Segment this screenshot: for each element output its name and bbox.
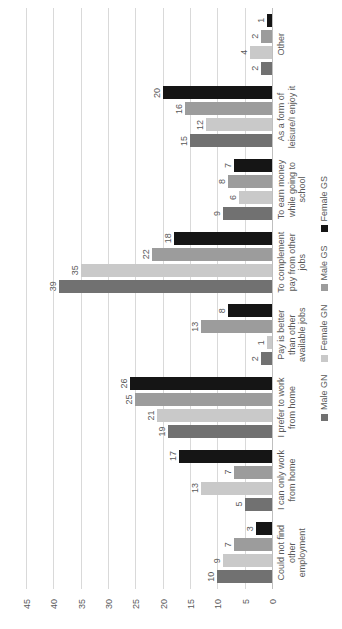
bar-value-label: 13 xyxy=(190,314,200,340)
bar-male-gn xyxy=(245,498,272,511)
value-axis: 051015202530354045 xyxy=(17,595,273,629)
category-label: To complementpay from otherjobs xyxy=(276,226,308,299)
value-axis-label: 25 xyxy=(131,599,141,629)
legend-item: Male GN xyxy=(319,375,329,422)
bar-male-gn xyxy=(59,280,272,293)
bar-female-gs xyxy=(130,377,272,390)
legend-item: Male GS xyxy=(319,245,329,291)
bar-value-label: 19 xyxy=(157,418,167,444)
bar-male-gn xyxy=(261,62,272,75)
bar-female-gs xyxy=(256,522,272,535)
value-axis-label: 35 xyxy=(77,599,87,629)
bar-value-label: 6 xyxy=(228,185,238,211)
category-label: To earn moneywhile going toschool xyxy=(276,153,308,226)
bar-value-label: 8 xyxy=(217,298,227,324)
bar-value-label: 4 xyxy=(239,39,249,65)
bar-value-label: 22 xyxy=(141,241,151,267)
bar-value-label: 1 xyxy=(256,330,266,356)
legend-swatch xyxy=(321,285,328,292)
legend-label: Female GS xyxy=(319,176,329,222)
category-label: As a form ofleisure/I enjoy it xyxy=(276,81,308,154)
bar-female-gs xyxy=(228,304,272,317)
bar-value-label: 5 xyxy=(234,491,244,517)
bar-value-label: 13 xyxy=(190,475,200,501)
value-axis-label: 15 xyxy=(186,599,196,629)
bar-male-gn xyxy=(217,570,272,583)
bar-value-label: 39 xyxy=(48,273,58,299)
bar-value-label: 26 xyxy=(119,370,129,396)
axis-baseline xyxy=(272,8,273,589)
legend-label: Male GN xyxy=(319,375,329,411)
legend-swatch xyxy=(321,355,328,362)
bar-value-label: 35 xyxy=(70,257,80,283)
bar-value-label: 20 xyxy=(152,80,162,106)
value-axis-label: 20 xyxy=(159,599,169,629)
value-axis-label: 5 xyxy=(241,599,251,629)
category-axis: Could not findotheremploymentI can only … xyxy=(276,8,308,589)
bar-value-label: 1 xyxy=(256,7,266,33)
bar-value-label: 9 xyxy=(212,201,222,227)
legend-swatch xyxy=(321,414,328,421)
bar-value-label: 16 xyxy=(174,96,184,122)
bar-value-label: 2 xyxy=(250,55,260,81)
legend-item: Female GN xyxy=(319,305,329,362)
category-label: Pay is betterthan otheravailable jobs xyxy=(276,299,308,372)
bar-male-gs xyxy=(201,320,272,333)
value-axis-label: 40 xyxy=(49,599,59,629)
bar-male-gs xyxy=(228,175,272,188)
chart-root: 051015202530354045 105192399152913211356… xyxy=(0,0,342,629)
bar-value-label: 12 xyxy=(195,112,205,138)
bar-value-label: 21 xyxy=(146,402,156,428)
bar-female-gn xyxy=(267,336,272,349)
bar-male-gs xyxy=(234,466,272,479)
bar-value-label: 15 xyxy=(179,128,189,154)
value-axis-label: 30 xyxy=(104,599,114,629)
category-label: I can only workfrom home xyxy=(276,444,308,517)
bar-value-label: 9 xyxy=(212,548,222,574)
bar-value-label: 17 xyxy=(168,443,178,469)
legend-item: Female GS xyxy=(319,176,329,233)
bar-female-gs xyxy=(179,450,272,463)
bar-female-gs xyxy=(174,232,272,245)
gridline xyxy=(108,8,109,589)
gridline xyxy=(26,8,27,589)
legend-label: Female GN xyxy=(319,305,329,351)
legend-swatch xyxy=(321,225,328,232)
legend: Male GNFemale GNMale GSFemale GS xyxy=(319,8,329,589)
category-label: Could not findotheremployment xyxy=(276,516,308,589)
bar-chart: 051015202530354045 105192399152913211356… xyxy=(0,0,342,629)
bar-female-gn xyxy=(239,191,272,204)
bar-female-gn xyxy=(201,482,272,495)
value-axis-label: 0 xyxy=(268,599,278,629)
bar-value-label: 7 xyxy=(223,153,233,179)
legend-label: Male GS xyxy=(319,245,329,280)
bar-male-gn xyxy=(168,425,272,438)
category-label: I prefer to workfrom home xyxy=(276,371,308,444)
bar-value-label: 18 xyxy=(163,225,173,251)
bar-female-gs xyxy=(234,159,272,172)
plot-area: 1051923991529132113561247725132281623172… xyxy=(17,8,273,589)
bar-female-gs xyxy=(163,86,272,99)
gridline xyxy=(135,8,136,589)
value-axis-label: 10 xyxy=(213,599,223,629)
bar-female-gn xyxy=(157,409,272,422)
bar-male-gs xyxy=(135,393,272,406)
category-label: Other xyxy=(276,8,308,81)
rotated-canvas: 051015202530354045 105192399152913211356… xyxy=(0,0,342,629)
bar-female-gn xyxy=(206,118,272,131)
bar-value-label: 7 xyxy=(223,532,233,558)
bar-female-gs xyxy=(267,14,272,27)
bar-value-label: 7 xyxy=(223,459,233,485)
gridline xyxy=(81,8,82,589)
bar-male-gs xyxy=(185,102,272,115)
value-axis-label: 45 xyxy=(22,599,32,629)
bar-female-gn xyxy=(81,264,272,277)
bar-value-label: 3 xyxy=(245,516,255,542)
